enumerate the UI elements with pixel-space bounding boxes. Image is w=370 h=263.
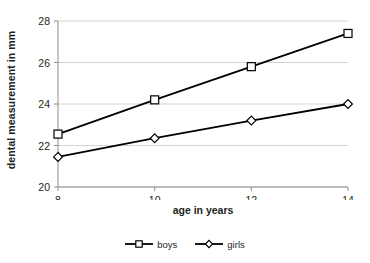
y-tick-label: 22 xyxy=(38,140,50,152)
y-tick-labels: 2022242628 xyxy=(38,15,50,193)
marker-square xyxy=(136,241,142,247)
marker-square xyxy=(151,96,159,104)
legend-marker-diamond-icon xyxy=(195,238,223,250)
legend-label: girls xyxy=(227,239,244,250)
marker-diamond xyxy=(344,100,353,109)
axis-ticks xyxy=(54,21,348,191)
series-line-girls xyxy=(58,104,348,157)
series-lines xyxy=(58,33,348,156)
legend-item-boys[interactable]: boys xyxy=(125,238,177,250)
gridlines xyxy=(58,21,348,187)
x-tick-label: 12 xyxy=(245,194,257,200)
legend-marker-square-icon xyxy=(125,238,153,250)
marker-diamond xyxy=(206,240,213,247)
x-tick-labels: 8101214 xyxy=(55,194,354,200)
marker-diamond xyxy=(150,134,159,143)
y-tick-label: 28 xyxy=(38,15,50,27)
legend-label: boys xyxy=(157,239,177,250)
legend-item-girls[interactable]: girls xyxy=(195,238,244,250)
x-tick-label: 10 xyxy=(149,194,161,200)
marker-square xyxy=(54,130,62,138)
y-tick-label: 24 xyxy=(38,98,50,110)
y-tick-label: 20 xyxy=(38,181,50,193)
marker-diamond xyxy=(247,116,256,125)
plot-area: 2022242628 8101214 xyxy=(0,0,370,200)
series-line-boys xyxy=(58,33,348,134)
x-axis-title: age in years xyxy=(58,204,348,216)
x-tick-label: 14 xyxy=(342,194,354,200)
line-chart: dental measurement in mm 2022242628 8101… xyxy=(0,0,370,263)
marker-diamond xyxy=(54,153,63,162)
series-markers xyxy=(54,29,353,161)
y-tick-label: 26 xyxy=(38,57,50,69)
chart-legend: boysgirls xyxy=(0,238,370,250)
marker-square xyxy=(344,29,352,37)
marker-square xyxy=(247,63,255,71)
x-tick-label: 8 xyxy=(55,194,61,200)
